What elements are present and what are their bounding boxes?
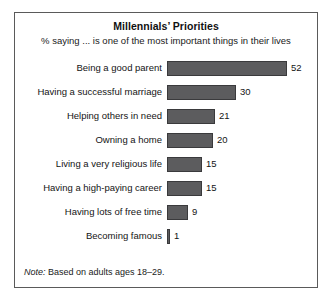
bar-row: Becoming famous1 — [15, 224, 317, 248]
bar-track: 9 — [167, 200, 317, 224]
bar-track: 52 — [167, 56, 317, 80]
bar-category-label: Living a very religious life — [15, 158, 167, 170]
chart-header: Millennials’ Priorities % saying ... is … — [15, 13, 317, 48]
bar-row: Having a successful marriage30 — [15, 80, 317, 104]
bar-row: Having a high-paying career15 — [15, 176, 317, 200]
bar-value-label: 20 — [217, 134, 228, 146]
bar — [167, 229, 170, 244]
bar-category-label: Having lots of free time — [15, 206, 167, 218]
bar-track: 20 — [167, 128, 317, 152]
bar-category-label: Having a high-paying career — [15, 182, 167, 194]
bar-row: Having lots of free time9 — [15, 200, 317, 224]
bar-track: 1 — [167, 224, 317, 248]
bar — [167, 181, 202, 196]
bar — [167, 157, 202, 172]
bar-value-label: 1 — [174, 230, 179, 242]
figure-note: Note: Based on adults ages 18–29. — [24, 266, 165, 278]
bar-value-label: 21 — [219, 110, 230, 122]
bar-value-label: 30 — [240, 86, 251, 98]
bar — [167, 133, 213, 148]
bar-value-label: 15 — [206, 158, 217, 170]
bar-track: 30 — [167, 80, 317, 104]
bar-chart-plot-area: Being a good parent52Having a successful… — [15, 56, 317, 248]
bar-category-label: Being a good parent — [15, 62, 167, 74]
bar-track: 15 — [167, 176, 317, 200]
bar-row: Owning a home20 — [15, 128, 317, 152]
bar — [167, 205, 188, 220]
chart-figure: Millennials’ Priorities % saying ... is … — [14, 12, 318, 288]
bar-row: Helping others in need21 — [15, 104, 317, 128]
bar-category-label: Becoming famous — [15, 230, 167, 242]
figure-note-text: Based on adults ages 18–29. — [46, 267, 165, 277]
chart-title: Millennials’ Priorities — [23, 19, 309, 33]
bar-track: 15 — [167, 152, 317, 176]
bar-value-label: 9 — [192, 206, 197, 218]
bar-category-label: Having a successful marriage — [15, 86, 167, 98]
bar — [167, 61, 287, 76]
bar — [167, 85, 236, 100]
bar-value-label: 52 — [291, 62, 302, 74]
chart-subtitle: % saying ... is one of the most importan… — [23, 34, 309, 48]
bar-track: 21 — [167, 104, 317, 128]
bar — [167, 109, 215, 124]
bar-row: Living a very religious life15 — [15, 152, 317, 176]
bar-value-label: 15 — [206, 182, 217, 194]
bar-category-label: Owning a home — [15, 134, 167, 146]
bar-row: Being a good parent52 — [15, 56, 317, 80]
figure-note-lead: Note: — [24, 267, 46, 277]
bar-category-label: Helping others in need — [15, 110, 167, 122]
